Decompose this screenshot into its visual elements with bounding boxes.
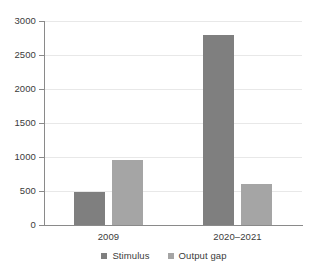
bar-output-gap-2009 <box>112 160 143 225</box>
y-axis-tick-mark <box>39 123 44 124</box>
gridline <box>44 55 302 56</box>
y-axis-tick-label: 1500 <box>0 118 36 128</box>
y-axis-tick-label: 500 <box>0 186 36 196</box>
y-axis-tick-mark <box>39 55 44 56</box>
y-axis-tick-label: 3000 <box>0 16 36 26</box>
y-axis-tick-label: 2000 <box>0 84 36 94</box>
y-axis-tick-labels: 300025002000150010005000 <box>0 0 36 273</box>
y-axis-tick-label: 2500 <box>0 50 36 60</box>
bar-stimulus-2020-2021 <box>203 35 234 225</box>
x-axis-line <box>44 225 303 226</box>
y-axis-tick-mark <box>39 191 44 192</box>
x-axis-tick-label: 2020–2021 <box>188 231 288 243</box>
y-axis-tick-mark <box>39 89 44 90</box>
legend-swatch-icon <box>168 253 174 259</box>
bar-output-gap-2020-2021 <box>241 184 272 225</box>
legend-item-label: Output gap <box>179 250 227 261</box>
y-axis-tick-mark <box>39 225 44 226</box>
legend-swatch-icon <box>101 253 107 259</box>
bar-stimulus-2009 <box>74 192 105 225</box>
y-axis-tick-mark <box>39 157 44 158</box>
plot-area <box>44 21 302 225</box>
legend-item-output-gap[interactable]: Output gap <box>168 250 227 261</box>
y-axis-tick-label: 0 <box>0 220 36 230</box>
gridline <box>44 157 302 158</box>
y-axis-line <box>44 21 45 226</box>
chart-legend: StimulusOutput gap <box>0 250 328 261</box>
gridline <box>44 123 302 124</box>
y-axis-tick-mark <box>39 21 44 22</box>
gridline <box>44 89 302 90</box>
gridline <box>44 21 302 22</box>
x-axis-tick-label: 2009 <box>59 231 159 243</box>
legend-item-label: Stimulus <box>112 250 149 261</box>
legend-item-stimulus[interactable]: Stimulus <box>101 250 149 261</box>
y-axis-tick-label: 1000 <box>0 152 36 162</box>
bar-chart-figure: 300025002000150010005000 20092020–2021 S… <box>0 0 328 273</box>
